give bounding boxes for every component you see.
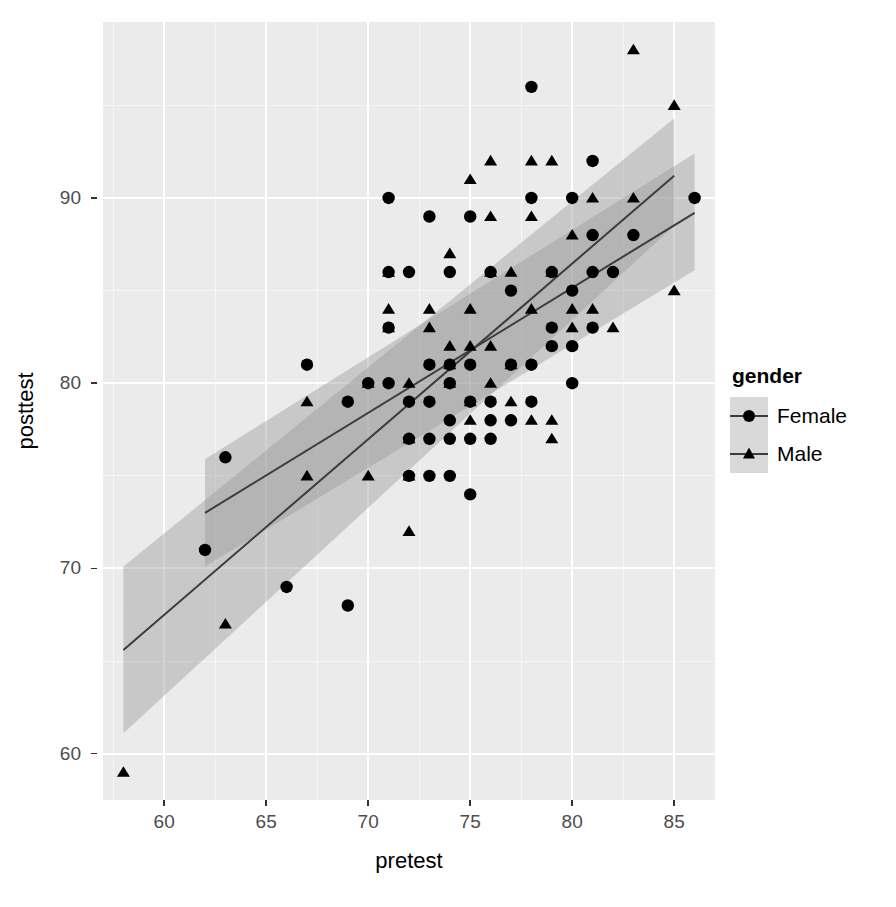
data-point-female: [484, 414, 496, 426]
data-point-female: [607, 266, 619, 278]
data-point-female: [464, 433, 476, 445]
data-point-female: [199, 544, 211, 556]
x-tick-label: 80: [562, 811, 583, 833]
regression-line: [123, 176, 674, 650]
data-point-female: [403, 396, 415, 408]
data-point-female: [444, 266, 456, 278]
plot-geometry: [103, 22, 715, 800]
x-tick-mark: [673, 800, 675, 806]
data-point-female: [586, 229, 598, 241]
data-point-male: [484, 210, 497, 221]
data-point-female: [444, 470, 456, 482]
data-point-female: [525, 81, 537, 93]
data-point-female: [525, 358, 537, 370]
legend-item-male[interactable]: Male: [730, 435, 880, 473]
x-tick-label: 65: [256, 811, 277, 833]
data-point-female: [566, 284, 578, 296]
data-point-female: [342, 396, 354, 408]
y-tick-label: 90: [60, 187, 81, 209]
data-point-female: [505, 284, 517, 296]
data-point-female: [423, 210, 435, 222]
data-point-male: [464, 173, 477, 184]
data-point-female: [484, 396, 496, 408]
x-axis: 606570758085: [103, 800, 715, 840]
data-point-male: [627, 44, 640, 55]
x-tick-mark: [163, 800, 165, 806]
x-axis-title: pretest: [103, 848, 715, 874]
x-tick-label: 70: [358, 811, 379, 833]
data-point-female: [505, 414, 517, 426]
chart-root: 60708090 posttest 606570758085 pretest g…: [0, 0, 896, 907]
data-point-male: [545, 155, 558, 166]
data-point-male: [668, 285, 681, 296]
data-point-male: [402, 525, 415, 536]
data-point-female: [566, 377, 578, 389]
legend-label-female: Female: [777, 404, 847, 428]
data-point-female: [546, 321, 558, 333]
data-point-female: [586, 321, 598, 333]
data-point-male: [117, 766, 130, 777]
data-point-male: [504, 396, 517, 407]
x-tick-mark: [265, 800, 267, 806]
data-point-male: [525, 414, 538, 425]
legend-title: gender: [732, 364, 880, 388]
y-tick-label: 70: [60, 557, 81, 579]
data-point-female: [301, 358, 313, 370]
data-point-female: [280, 581, 292, 593]
data-point-female: [444, 414, 456, 426]
plot-panel: [103, 22, 715, 800]
data-point-male: [545, 414, 558, 425]
legend-key-triangle-icon: [730, 435, 768, 473]
legend-key-circle-icon: [730, 397, 768, 435]
y-tick-mark: [91, 382, 97, 384]
y-tick-mark: [91, 197, 97, 199]
data-point-female: [586, 266, 598, 278]
data-point-male: [423, 303, 436, 314]
x-tick-mark: [571, 800, 573, 806]
data-point-male: [382, 303, 395, 314]
data-point-female: [423, 470, 435, 482]
data-point-female: [342, 599, 354, 611]
plot-panel-wrapper: [103, 22, 715, 800]
x-tick-mark: [469, 800, 471, 806]
data-point-male: [525, 155, 538, 166]
data-point-female: [382, 192, 394, 204]
data-point-male: [545, 433, 558, 444]
legend: gender Female Male: [730, 364, 880, 473]
data-point-female: [444, 433, 456, 445]
data-point-male: [525, 210, 538, 221]
data-point-male: [668, 99, 681, 110]
data-point-female: [464, 488, 476, 500]
x-tick-label: 85: [664, 811, 685, 833]
data-point-female: [484, 433, 496, 445]
data-point-female: [627, 229, 639, 241]
data-point-male: [443, 247, 456, 258]
data-point-female: [423, 433, 435, 445]
data-point-female: [525, 192, 537, 204]
data-point-female: [566, 192, 578, 204]
y-tick-mark: [91, 753, 97, 755]
data-point-female: [586, 155, 598, 167]
data-point-female: [423, 358, 435, 370]
x-tick-mark: [367, 800, 369, 806]
data-point-female: [464, 358, 476, 370]
x-tick-label: 60: [154, 811, 175, 833]
data-point-female: [403, 266, 415, 278]
data-point-female: [525, 396, 537, 408]
data-point-female: [423, 396, 435, 408]
y-tick-mark: [91, 568, 97, 570]
confidence-ribbon: [123, 118, 674, 733]
y-tick-label: 80: [60, 372, 81, 394]
data-point-female: [546, 340, 558, 352]
data-point-female: [688, 192, 700, 204]
y-axis-title: posttest: [14, 22, 38, 800]
x-tick-label: 75: [460, 811, 481, 833]
legend-label-male: Male: [777, 442, 823, 466]
data-point-female: [566, 340, 578, 352]
data-point-female: [464, 210, 476, 222]
confidence-ribbons: [123, 118, 694, 733]
data-point-female: [382, 377, 394, 389]
legend-item-female[interactable]: Female: [730, 397, 880, 435]
data-point-male: [606, 322, 619, 333]
data-point-male: [484, 155, 497, 166]
